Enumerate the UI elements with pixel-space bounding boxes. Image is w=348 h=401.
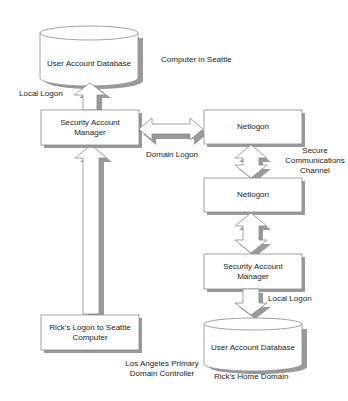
- local-logon-top-label: Local Logon: [19, 89, 63, 99]
- secure-channel-line1: Secure: [280, 146, 348, 156]
- seattle-sam-label-line2: Manager: [41, 128, 139, 138]
- la-sam-label-line2: Manager: [204, 272, 302, 282]
- la-pdc-line1: Los Angeles Primary: [122, 359, 202, 369]
- ricks-logon-label-line2: Computer: [41, 333, 139, 343]
- seattle-sam-label: Security Account Manager: [41, 118, 139, 138]
- local-logon-bottom-label: Local Logon: [268, 294, 312, 304]
- la-sam-label: Security Account Manager: [204, 262, 302, 282]
- la-pdc-line2: Domain Controller: [122, 369, 202, 379]
- netlogon-sam-arrow: [235, 213, 271, 257]
- secure-channel-arrow: [235, 145, 271, 182]
- la-sam-label-line1: Security Account: [204, 262, 302, 272]
- ricks-home-domain-label: Rick's Home Domain: [214, 372, 288, 382]
- local-logon-arrow-bottom: [235, 289, 271, 319]
- netlogon-la-label: Netlogon: [204, 190, 302, 200]
- seattle-database-label: User Account Database: [40, 59, 138, 69]
- secure-channel-line2: Communications: [280, 156, 348, 166]
- ricks-logon-label: Rick's Logon to Seattle Computer: [41, 323, 139, 343]
- secure-channel-line3: Channel: [280, 166, 348, 176]
- ricks-logon-label-line1: Rick's Logon to Seattle: [41, 323, 139, 333]
- domain-logon-label: Domain Logon: [146, 150, 198, 160]
- domain-logon-arrow: [139, 118, 207, 145]
- seattle-sam-label-line1: Security Account: [41, 118, 139, 128]
- logon-arrow-long: [75, 145, 112, 318]
- la-pdc-label: Los Angeles Primary Domain Controller: [122, 359, 202, 379]
- secure-channel-label: Secure Communications Channel: [280, 146, 348, 176]
- computer-in-seattle-label: Computer in Seattle: [161, 55, 232, 65]
- la-database-label: User Account Database: [204, 343, 302, 353]
- netlogon-seattle-label: Netlogon: [204, 122, 302, 132]
- seattle-database-shape: [40, 26, 143, 89]
